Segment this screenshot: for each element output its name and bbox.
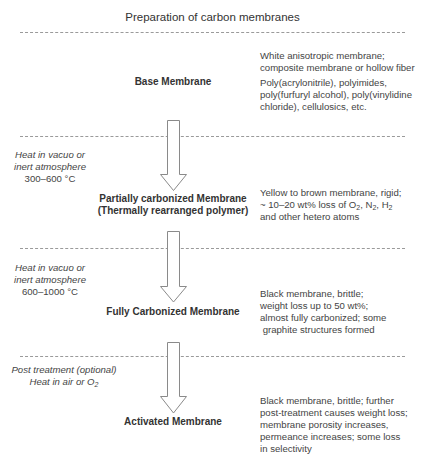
condition-stage-1: Heat in vacuo or inert atmosphere 300–60…	[0, 149, 100, 185]
divider-line	[20, 248, 405, 249]
divider-line	[20, 136, 405, 137]
stage-label: Partially carbonized Membrane	[88, 193, 258, 205]
diagram-title: Preparation of carbon membranes	[0, 11, 425, 23]
condition-line: Heat in vacuo or	[0, 262, 100, 274]
down-arrow-icon	[160, 231, 188, 303]
stage-label: Base Membrane	[93, 76, 253, 88]
condition-line: inert atmosphere	[0, 161, 100, 173]
stage-base-membrane: Base Membrane	[93, 76, 253, 88]
note-line: weight loss up to 50 wt%;	[260, 300, 386, 312]
note-line: poly(furfuryl alcohol), poly(vinylidine	[260, 89, 412, 101]
stage-label: Activated Membrane	[88, 416, 258, 428]
note-line: Black membrane, brittle; further	[260, 395, 408, 407]
note-line: composite membrane or hollow fiber	[260, 62, 415, 74]
note-line: post-treatment causes weight loss;	[260, 407, 408, 419]
stage-label: (Thermally rearranged polymer)	[88, 205, 258, 217]
note-line: Yellow to brown membrane, rigid;	[260, 187, 402, 199]
note-line: White anisotropic membrane;	[260, 50, 415, 62]
stage-fully-carbonized: Fully Carbonized Membrane	[88, 306, 258, 318]
note-fully-carbonized: Black membrane, brittle; weight loss up …	[260, 288, 386, 336]
condition-line-heat-air: Heat in air or O2	[8, 376, 120, 388]
condition-stage-2: Heat in vacuo or inert atmosphere 600–10…	[0, 262, 100, 298]
stage-activated: Activated Membrane	[88, 416, 258, 428]
note-line: membrane porosity increases,	[260, 419, 408, 431]
note-line-gases: ~ 10–20 wt% loss of O2, N2, H2	[260, 199, 402, 211]
note-line: Poly(acrylonitrile), polyimides,	[260, 77, 412, 89]
condition-line: Post treatment (optional)	[8, 364, 120, 376]
divider-line	[20, 32, 405, 33]
note-line: and other hetero atoms	[260, 211, 402, 223]
note-base-membrane-form: White anisotropic membrane; composite me…	[260, 50, 415, 74]
stage-label: Fully Carbonized Membrane	[88, 306, 258, 318]
note-activated: Black membrane, brittle; further post-tr…	[260, 395, 408, 455]
note-line: chloride), cellulosics, etc.	[260, 101, 412, 113]
note-partially-carbonized: Yellow to brown membrane, rigid; ~ 10–20…	[260, 187, 402, 223]
note-line: in selectivity	[260, 443, 408, 455]
down-arrow-icon	[160, 120, 188, 192]
condition-line: inert atmosphere	[0, 274, 100, 286]
note-line: graphite structures formed	[260, 324, 386, 336]
note-base-membrane-materials: Poly(acrylonitrile), polyimides, poly(fu…	[260, 77, 412, 113]
condition-stage-3: Post treatment (optional) Heat in air or…	[8, 364, 120, 388]
divider-line	[20, 356, 405, 357]
condition-temperature: 300–600 °C	[0, 173, 100, 185]
note-line: Black membrane, brittle;	[260, 288, 386, 300]
condition-temperature: 600–1000 °C	[0, 286, 100, 298]
stage-partially-carbonized: Partially carbonized Membrane (Thermally…	[88, 193, 258, 217]
note-line: almost fully carbonized; some	[260, 312, 386, 324]
down-arrow-icon	[160, 342, 188, 414]
condition-line: Heat in vacuo or	[0, 149, 100, 161]
note-line: permeance increases; some loss	[260, 431, 408, 443]
